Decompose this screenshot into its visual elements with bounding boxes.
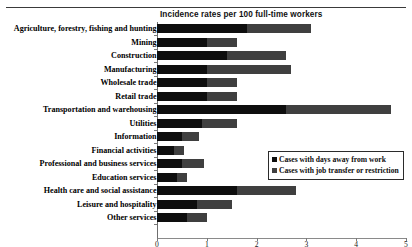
- x-axis-tick-label: 2: [255, 240, 259, 247]
- bar-row: Information: [0, 130, 412, 144]
- bar-segment-days-away: [157, 132, 182, 141]
- bar-segment-days-away: [157, 92, 207, 101]
- category-label: Financial activities: [92, 144, 157, 158]
- bar-row: Transportation and warehousing: [0, 103, 412, 117]
- category-label: Professional and business services: [40, 157, 157, 171]
- stacked-bar: [157, 213, 207, 222]
- bar-row: Other services: [0, 211, 412, 225]
- category-label: Other services: [107, 211, 157, 225]
- category-label: Information: [114, 130, 156, 144]
- stacked-bar: [157, 132, 199, 141]
- bar-segment-job-transfer: [197, 200, 232, 209]
- bar-segment-job-transfer: [237, 186, 297, 195]
- chart-title: Incidence rates per 100 full-time worker…: [160, 10, 322, 19]
- bar-segment-days-away: [157, 159, 182, 168]
- x-axis-tick-label: 1: [205, 240, 209, 247]
- y-axis-tick: [154, 224, 158, 225]
- bar-segment-days-away: [157, 38, 207, 47]
- category-label: Wholesale trade: [101, 76, 157, 90]
- x-axis-tick-label: 0: [155, 240, 159, 247]
- category-label: Agriculture, forestry, fishing and hunti…: [14, 22, 157, 36]
- bar-segment-job-transfer: [286, 105, 391, 114]
- bar-segment-job-transfer: [247, 24, 312, 33]
- chart-legend: Cases with days away from work Cases wit…: [268, 151, 404, 181]
- x-axis-tick-label: 4: [354, 240, 358, 247]
- legend-swatch-days-away-icon: [272, 157, 277, 162]
- bar-segment-job-transfer: [202, 119, 237, 128]
- bar-segment-job-transfer: [227, 51, 287, 60]
- bar-segment-days-away: [157, 78, 207, 87]
- legend-label: Cases with job transfer or restriction: [279, 166, 399, 175]
- bar-segment-days-away: [157, 186, 237, 195]
- stacked-bar: [157, 159, 204, 168]
- category-label: Mining: [131, 36, 156, 50]
- stacked-bar: [157, 38, 237, 47]
- stacked-bar: [157, 186, 296, 195]
- bar-rows: Agriculture, forestry, fishing and hunti…: [0, 22, 412, 238]
- bar-segment-days-away: [157, 51, 227, 60]
- bar-segment-job-transfer: [207, 38, 237, 47]
- legend-swatch-job-transfer-icon: [272, 168, 277, 173]
- stacked-bar: [157, 146, 184, 155]
- legend-item: Cases with days away from work: [272, 154, 399, 165]
- category-label: Education services: [92, 171, 157, 185]
- bar-segment-job-transfer: [174, 146, 184, 155]
- category-label: Transportation and warehousing: [43, 103, 157, 117]
- header-divider: [6, 7, 406, 8]
- stacked-bar: [157, 24, 311, 33]
- stacked-bar: [157, 119, 237, 128]
- bar-segment-days-away: [157, 105, 286, 114]
- stacked-bar: [157, 200, 232, 209]
- bar-segment-job-transfer: [207, 65, 292, 74]
- bar-row: Leisure and hospitality: [0, 198, 412, 212]
- bar-row: Health care and social assistance: [0, 184, 412, 198]
- bar-row: Construction: [0, 49, 412, 63]
- category-label: Construction: [111, 49, 156, 63]
- bar-segment-days-away: [157, 213, 187, 222]
- bar-segment-job-transfer: [207, 78, 237, 87]
- bar-segment-days-away: [157, 146, 174, 155]
- category-label: Manufacturing: [104, 63, 157, 77]
- bar-segment-days-away: [157, 200, 197, 209]
- bar-row: Manufacturing: [0, 63, 412, 77]
- legend-label: Cases with days away from work: [279, 155, 386, 164]
- stacked-bar: [157, 65, 291, 74]
- chart-container: Incidence rates per 100 full-time worker…: [0, 0, 412, 247]
- bar-segment-job-transfer: [187, 213, 207, 222]
- bar-segment-days-away: [157, 65, 207, 74]
- category-label: Health care and social assistance: [44, 184, 157, 198]
- bar-segment-job-transfer: [182, 159, 204, 168]
- x-axis-tick-label: 3: [304, 240, 308, 247]
- category-label: Retail trade: [115, 90, 156, 104]
- bar-segment-days-away: [157, 119, 202, 128]
- category-label: Leisure and hospitality: [77, 198, 156, 212]
- bar-row: Utilities: [0, 117, 412, 131]
- bar-segment-days-away: [157, 173, 177, 182]
- stacked-bar: [157, 51, 286, 60]
- bar-segment-days-away: [157, 24, 247, 33]
- category-label: Utilities: [130, 117, 157, 131]
- stacked-bar: [157, 92, 237, 101]
- x-axis-tick-label: 5: [404, 240, 408, 247]
- stacked-bar: [157, 78, 237, 87]
- bar-segment-job-transfer: [182, 132, 199, 141]
- bar-row: Wholesale trade: [0, 76, 412, 90]
- bar-segment-job-transfer: [207, 92, 237, 101]
- bar-row: Retail trade: [0, 90, 412, 104]
- bar-row: Agriculture, forestry, fishing and hunti…: [0, 22, 412, 36]
- stacked-bar: [157, 173, 187, 182]
- stacked-bar: [157, 105, 391, 114]
- legend-item: Cases with job transfer or restriction: [272, 165, 399, 176]
- bar-row: Mining: [0, 36, 412, 50]
- bar-segment-job-transfer: [177, 173, 187, 182]
